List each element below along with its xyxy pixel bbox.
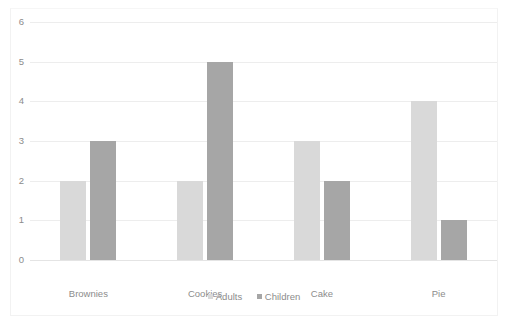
- legend-swatch-icon: [208, 294, 213, 299]
- bar[interactable]: [177, 181, 203, 260]
- y-axis-tick-label: 1: [0, 215, 24, 225]
- bar-group: [60, 22, 116, 260]
- y-axis-tick-label: 5: [0, 57, 24, 67]
- y-axis-tick-label: 3: [0, 136, 24, 146]
- bar-chart: 6543210BrowniesCookiesCakePie Adults Chi…: [0, 0, 508, 331]
- legend-item-adults[interactable]: Adults: [208, 291, 242, 303]
- bar-group: [177, 22, 233, 260]
- gridline: [30, 260, 497, 261]
- y-axis-tick-label: 2: [0, 176, 24, 186]
- plot-area: 6543210BrowniesCookiesCakePie: [30, 22, 497, 260]
- legend-item-label: Children: [265, 291, 300, 303]
- legend-item-children[interactable]: Children: [257, 291, 300, 303]
- y-axis-tick-label: 6: [0, 17, 24, 27]
- bar-group: [294, 22, 350, 260]
- bar[interactable]: [324, 181, 350, 260]
- legend-item-label: Adults: [216, 291, 242, 303]
- bar-group: [411, 22, 467, 260]
- bar[interactable]: [90, 141, 116, 260]
- chart-title: [22, 0, 492, 3]
- chart-legend: Adults Children: [0, 291, 508, 303]
- bar[interactable]: [294, 141, 320, 260]
- bar[interactable]: [60, 181, 86, 260]
- bar[interactable]: [441, 220, 467, 260]
- y-axis-tick-label: 4: [0, 96, 24, 106]
- bar[interactable]: [411, 101, 437, 260]
- legend-swatch-icon: [257, 294, 262, 299]
- y-axis-tick-label: 0: [0, 255, 24, 265]
- bar[interactable]: [207, 62, 233, 260]
